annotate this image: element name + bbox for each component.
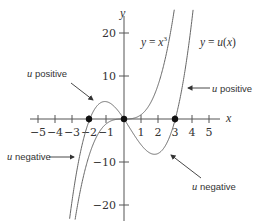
x-tick-labels: −5 −4 −3 −2 −1 1 2 3 4 5 <box>30 126 213 139</box>
x-tick-label: 4 <box>189 126 196 139</box>
y-tick-label: 10 <box>102 70 116 83</box>
x-tick-label: −2 <box>81 126 97 139</box>
annotation-u-negative-right: u negative <box>171 155 236 192</box>
x-tick-label: −4 <box>47 126 63 139</box>
svg-text:u positive: u positive <box>212 83 252 94</box>
svg-text:u negative: u negative <box>192 181 236 192</box>
annotation-u-negative-left: u negative <box>7 151 74 162</box>
x-tick-label: 2 <box>155 126 162 139</box>
y-axis-label: y <box>119 6 126 20</box>
x-tick-label: −1 <box>98 126 114 139</box>
curve-label-x-cubed: y = x3 <box>140 35 167 49</box>
y-tick-label: −10 <box>93 156 116 169</box>
svg-text:u negative: u negative <box>7 151 51 162</box>
annotation-u-positive-left: u positive <box>27 68 93 100</box>
y-tick-label: 20 <box>102 27 116 40</box>
curve-u-of-x <box>70 10 193 219</box>
annotation-u-positive-right: u positive <box>188 83 252 94</box>
x-tick-label: −3 <box>64 126 80 139</box>
chart: −5 −4 −3 −2 −1 1 2 3 4 5 20 10 −10 −20 x… <box>0 0 260 221</box>
curve-label-u-of-x: y = u(x) <box>199 36 236 49</box>
root-point <box>172 116 178 122</box>
x-tick-label: −5 <box>30 126 46 139</box>
root-point <box>86 116 92 122</box>
x-axis-label: x <box>225 111 232 125</box>
y-tick-label: −20 <box>93 199 116 212</box>
x-tick-label: 5 <box>206 126 213 139</box>
x-tick-label: 1 <box>138 126 145 139</box>
svg-text:u positive: u positive <box>27 68 67 79</box>
root-point <box>121 116 127 122</box>
